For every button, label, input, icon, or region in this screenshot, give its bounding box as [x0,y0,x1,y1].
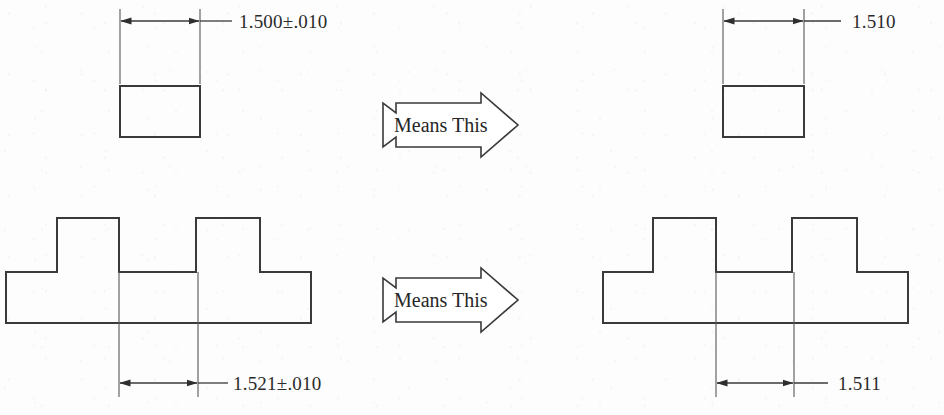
top-left-dimension-label: 1.500±.010 [239,11,327,32]
top-right-figure: 1.510 [723,9,896,137]
top-means-this-arrow: Means This [383,93,518,157]
top-means-this-label: Means This [394,114,488,136]
figure-canvas: 1.500±.010 Means This 1.510 1.521±. [0,0,944,415]
bottom-means-this-arrow: Means This [383,268,518,332]
top-right-part-outline [723,86,804,137]
bottom-right-part-outline [603,218,908,323]
top-left-part-outline [120,86,200,137]
bottom-means-this-label: Means This [394,289,488,311]
bottom-right-figure: 1.511 [603,218,908,397]
bottom-right-dimension-label: 1.511 [838,373,881,394]
bottom-left-figure: 1.521±.010 [6,218,321,397]
top-right-dimension-label: 1.510 [852,11,896,32]
bottom-left-part-outline [6,218,311,323]
bottom-left-dimension-label: 1.521±.010 [233,373,321,394]
engineering-drawing: 1.500±.010 Means This 1.510 1.521±. [0,0,944,415]
top-left-figure: 1.500±.010 [120,9,327,137]
